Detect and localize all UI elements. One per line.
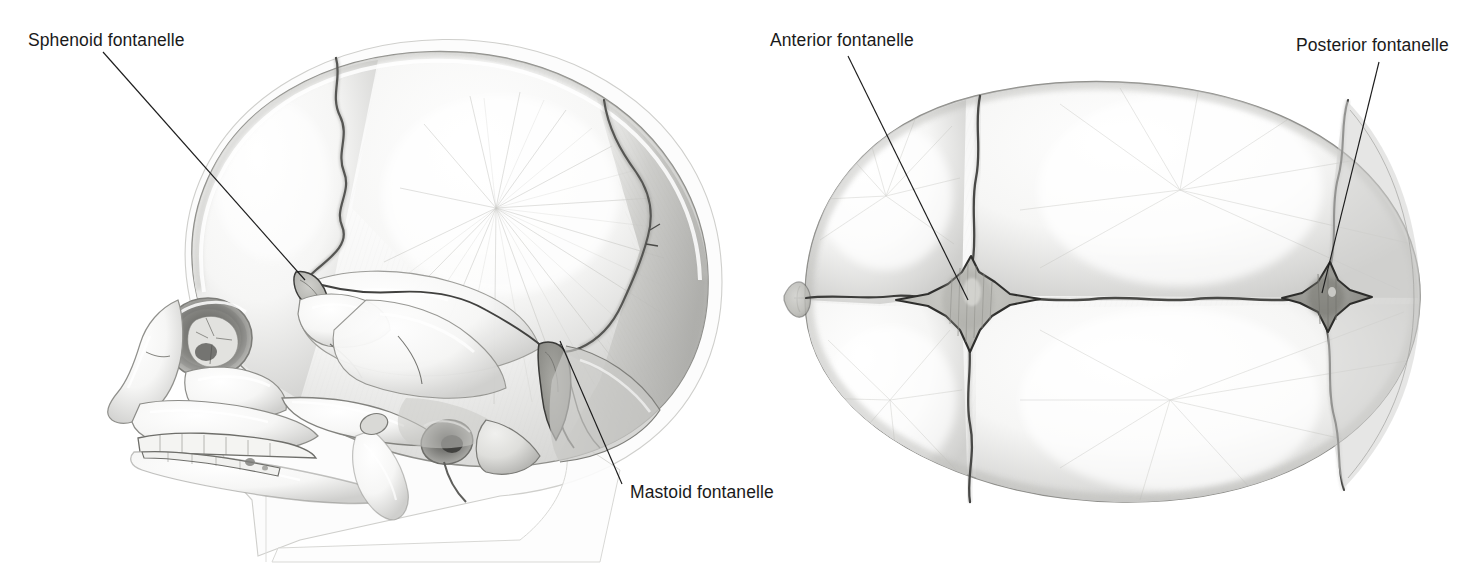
- fontanelle-figure: Sphenoid fontanelle Mastoid fontanelle A…: [0, 0, 1480, 563]
- mental-foramen: [245, 458, 255, 466]
- label-anterior-fontanelle: Anterior fontanelle: [770, 30, 914, 50]
- posterior-fontanelle-core: [1308, 277, 1344, 317]
- label-mastoid-fontanelle: Mastoid fontanelle: [630, 482, 774, 502]
- posterior-fontanelle-highlight: [1328, 287, 1336, 297]
- optic-foramen: [195, 343, 217, 361]
- label-sphenoid-fontanelle: Sphenoid fontanelle: [28, 30, 185, 50]
- parietal-eminence-highlight: [382, 95, 618, 295]
- anterior-fontanelle-highlight: [963, 278, 981, 306]
- mental-foramen-small: [262, 466, 268, 471]
- metopic-branch-shadow: [968, 334, 972, 502]
- orbital-plates: [188, 316, 238, 366]
- label-posterior-fontanelle: Posterior fontanelle: [1296, 35, 1449, 55]
